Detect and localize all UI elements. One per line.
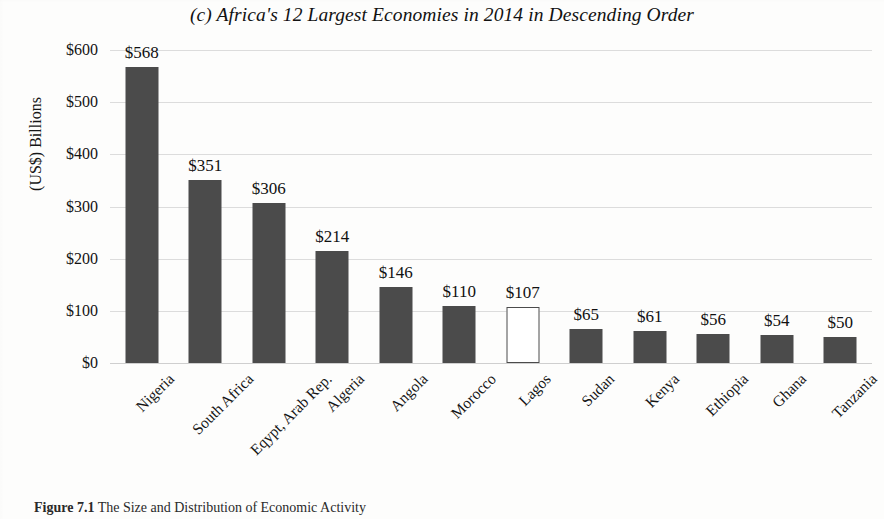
x-axis-label-slot: Sudan: [555, 366, 619, 476]
x-axis-tick-label: Nigeria: [132, 370, 178, 416]
y-axis-tick-label: $0: [82, 354, 98, 372]
figure-caption-text: The Size and Distribution of Economic Ac…: [98, 500, 366, 515]
x-axis-label-slot: Tanzania: [809, 366, 873, 476]
bar-value-label: $54: [764, 311, 790, 331]
figure-panel: (c) Africa's 12 Largest Economies in 201…: [0, 0, 884, 519]
x-axis-tick-label: Ghana: [768, 370, 809, 411]
x-axis-label-slot: South Africa: [174, 366, 238, 476]
bar-value-label: $568: [125, 43, 159, 63]
bar-value-label: $61: [637, 307, 663, 327]
x-axis-label-slot: Ghana: [745, 366, 809, 476]
bar[interactable]: [252, 203, 285, 363]
bar[interactable]: [316, 251, 349, 363]
x-axis-label-slot: Eqypt, Arab Rep.: [237, 366, 301, 476]
bar-slot: $568: [110, 50, 174, 363]
bar-value-label: $306: [252, 179, 286, 199]
bar-slot: $50: [809, 50, 873, 363]
bar[interactable]: [633, 331, 666, 363]
bar-value-label: $50: [828, 313, 854, 333]
bar-value-label: $214: [315, 227, 349, 247]
y-axis-tick-label: $100: [66, 302, 98, 320]
bar-slot: $54: [745, 50, 809, 363]
y-axis-tick-label: $300: [66, 198, 98, 216]
figure-caption-label: Figure 7.1: [34, 500, 94, 515]
bar[interactable]: [697, 334, 730, 363]
bar-slot: $351: [174, 50, 238, 363]
x-axis-label-slot: Ethiopia: [682, 366, 746, 476]
bar-value-label: $56: [701, 310, 727, 330]
x-axis-tick-label: Kenya: [641, 370, 682, 411]
bar[interactable]: [824, 337, 857, 363]
x-axis-label-slot: Morocco: [428, 366, 492, 476]
bar-value-label: $110: [443, 282, 476, 302]
bar-slot: $65: [555, 50, 619, 363]
x-axis-label-slot: Angola: [364, 366, 428, 476]
x-axis-tick-labels: NigeriaSouth AfricaEqypt, Arab Rep.Alger…: [110, 366, 872, 476]
bar-slot: $306: [237, 50, 301, 363]
plot-area: $568$351$306$214$146$110$107$65$61$56$54…: [110, 50, 872, 363]
x-axis-tick-label: Sudan: [578, 370, 618, 410]
x-axis-label-slot: Nigeria: [110, 366, 174, 476]
y-axis-tick-label: $500: [66, 93, 98, 111]
figure-caption: Figure 7.1 The Size and Distribution of …: [34, 500, 366, 516]
bar-slot: $107: [491, 50, 555, 363]
bar-slot: $56: [682, 50, 746, 363]
x-axis-label-slot: Lagos: [491, 366, 555, 476]
y-axis-tick-label: $600: [66, 41, 98, 59]
y-axis-tick-label: $200: [66, 250, 98, 268]
bar-slot: $61: [618, 50, 682, 363]
x-axis-tick-label: Algeria: [323, 370, 369, 416]
bar[interactable]: [506, 307, 539, 363]
bar[interactable]: [760, 335, 793, 363]
bar[interactable]: [189, 180, 222, 363]
bar-value-label: $146: [379, 263, 413, 283]
y-axis-tick-labels: $0$100$200$300$400$500$600: [0, 50, 104, 363]
bar[interactable]: [443, 306, 476, 363]
bar-slot: $214: [301, 50, 365, 363]
gridline: [110, 363, 872, 364]
x-axis-label-slot: Kenya: [618, 366, 682, 476]
chart-title: (c) Africa's 12 Largest Economies in 201…: [0, 4, 884, 26]
bar-slot: $146: [364, 50, 428, 363]
bar[interactable]: [379, 287, 412, 363]
bar-value-label: $65: [574, 305, 600, 325]
y-axis-tick-label: $400: [66, 145, 98, 163]
bar-value-label: $107: [506, 283, 540, 303]
x-axis-tick-label: Lagos: [515, 370, 555, 410]
bar[interactable]: [570, 329, 603, 363]
x-axis-tick-label: Angola: [386, 370, 431, 415]
x-axis-tick-label: Tanzania: [829, 370, 881, 422]
bar-slot: $110: [428, 50, 492, 363]
x-axis-label-slot: Algeria: [301, 366, 365, 476]
bar[interactable]: [125, 67, 158, 363]
bar-value-label: $351: [188, 156, 222, 176]
